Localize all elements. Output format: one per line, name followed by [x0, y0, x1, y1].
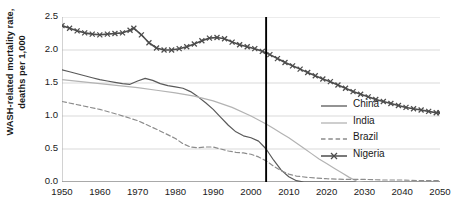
x-axis-tick-label: 2000 — [231, 186, 271, 197]
y-axis-tick-label: 1.0 — [32, 110, 58, 120]
x-axis-tick-label: 2040 — [382, 186, 422, 197]
x-axis-tick-label: 1950 — [42, 186, 82, 197]
y-axis-tick-label: 0.0 — [32, 176, 58, 186]
x-axis-tick-label: 1990 — [193, 186, 233, 197]
legend-item-china[interactable]: China — [320, 96, 420, 112]
legend-label: China — [353, 98, 379, 110]
legend-swatch-brazil — [320, 131, 348, 143]
legend-swatch-china — [320, 98, 348, 110]
legend-swatch-nigeria — [320, 148, 348, 160]
x-axis-tick-label: 2020 — [307, 186, 347, 197]
y-axis-tick-label: 2.0 — [32, 44, 58, 54]
x-axis-tick-label: 1980 — [155, 186, 195, 197]
legend-item-india[interactable]: India — [320, 113, 420, 129]
y-axis-title: WASH-related mortality rate, deaths per … — [0, 0, 34, 167]
legend-swatch-india — [320, 115, 348, 127]
chart-legend: ChinaIndiaBrazilNigeria — [320, 96, 420, 162]
legend-label: India — [353, 115, 375, 127]
x-axis-tick-label: 1960 — [80, 186, 120, 197]
y-axis-tick-labels: 0.00.51.01.52.02.5 — [30, 0, 58, 211]
x-axis-tick-label: 2050 — [420, 186, 453, 197]
y-axis-title-line-2: deaths per 1,000 — [17, 35, 29, 109]
y-axis-tick-label: 1.5 — [32, 77, 58, 87]
x-axis-tick-label: 2030 — [344, 186, 384, 197]
x-axis-tick-labels: 1950196019701980199020002010202020302040… — [0, 186, 453, 206]
legend-label: Brazil — [353, 131, 378, 143]
x-axis-tick-label: 2010 — [269, 186, 309, 197]
legend-item-brazil[interactable]: Brazil — [320, 129, 420, 145]
x-axis-tick-label: 1970 — [118, 186, 158, 197]
legend-label: Nigeria — [353, 148, 385, 160]
wash-mortality-line-chart: WASH-related mortality rate, deaths per … — [0, 0, 453, 211]
y-axis-tick-label: 2.5 — [32, 11, 58, 21]
legend-item-nigeria[interactable]: Nigeria — [320, 146, 420, 162]
y-axis-tick-label: 0.5 — [32, 143, 58, 153]
y-axis-title-line-1: WASH-related mortality rate, — [5, 9, 17, 136]
